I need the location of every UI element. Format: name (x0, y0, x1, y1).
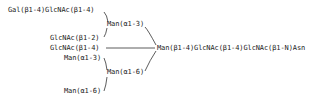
linkage-line (145, 27, 156, 45)
label-man-a16-bottom: Man(α1-6) (64, 87, 101, 95)
linkage-line (145, 51, 156, 71)
label-core-chain: Man(β1-4)GlcNAc(β1-4)GlcNAc(β1-N)Asn (157, 44, 305, 52)
label-glcnac-b14-bisect: GlcNAc(β1-4) (50, 44, 99, 52)
linkage-line (104, 28, 107, 37)
label-man-a13-lower: Man(α1-3) (64, 54, 101, 62)
label-gal-glcnac: Gal(β1-4)GlcNAc(β1-4) (8, 6, 94, 14)
label-man-a13-upper: Man(α1-3) (107, 20, 144, 28)
linkage-line (104, 77, 107, 91)
linkage-lines (0, 0, 332, 108)
label-glcnac-b12: GlcNAc(β1-2) (50, 34, 99, 42)
label-man-a16-mid: Man(α1-6) (107, 68, 144, 76)
